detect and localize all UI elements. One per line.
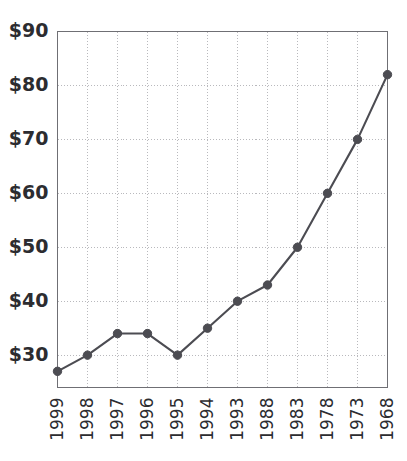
x-tick-label: 1993 [227,398,247,441]
y-tick-label: $80 [9,73,49,95]
x-tick-label: 1988 [257,398,277,441]
y-axis-tick-labels: $30$40$50$60$70$80$90 [9,19,49,365]
x-tick-label: 1978 [317,398,337,441]
data-point: 1995: $30 [173,351,181,359]
y-tick-label: $50 [9,235,49,257]
y-tick-label: $90 [9,19,49,41]
chart-container: 1999: $271998: $301997: $341996: $341995… [0,0,407,461]
x-tick-label: 1995 [167,398,187,441]
x-tick-label: 1996 [137,398,157,441]
data-point: 1998: $30 [83,351,91,359]
data-series-line [58,75,388,372]
y-tick-label: $30 [9,343,49,365]
y-tick-label: $40 [9,289,49,311]
x-tick-label: 1997 [107,398,127,441]
data-point: 1973: $70 [353,135,361,143]
data-point: 1978: $60 [323,189,331,197]
x-tick-label: 1983 [287,398,307,441]
line-chart-plot: 1999: $271998: $301997: $341996: $341995… [0,0,407,461]
data-point: 1994: $35 [203,324,211,332]
data-point: 1997: $34 [113,329,121,337]
x-tick-label: 1999 [47,398,67,441]
data-point: 1999: $27 [53,367,61,375]
data-markers-group: 1999: $271998: $301997: $341996: $341995… [53,70,391,375]
data-point: 1996: $34 [143,329,151,337]
data-point: 1983: $50 [293,243,301,251]
data-point: 1968: $82 [383,70,391,78]
x-tick-label: 1998 [77,398,97,441]
y-tick-label: $70 [9,127,49,149]
x-tick-label: 1968 [377,398,397,441]
data-point: 1993: $40 [233,297,241,305]
x-axis-tick-labels: 1999199819971996199519941993198819831978… [47,398,397,441]
x-tick-label: 1973 [347,398,367,441]
x-tick-label: 1994 [197,398,217,441]
y-tick-label: $60 [9,181,49,203]
data-point: 1988: $43 [263,281,271,289]
plot-frame [58,32,388,388]
